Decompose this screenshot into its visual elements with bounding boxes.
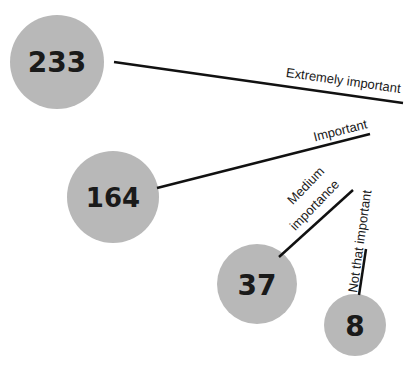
bubble-not-that-important: 8 Not that important	[324, 189, 386, 356]
connector-line	[157, 134, 370, 188]
bubble-medium-importance: 37 importance Medium	[217, 164, 353, 324]
bubble-value: 164	[86, 183, 140, 213]
bubble-label: Extremely important	[285, 65, 402, 96]
bubble-important: 164 Important	[67, 116, 370, 243]
bubble-label: Important	[312, 116, 369, 144]
bubble-value: 233	[28, 46, 86, 79]
bubble-value: 37	[238, 269, 277, 302]
importance-bubble-diagram: 233 Extremely important 164 Important 37…	[0, 0, 409, 366]
bubble-label: Not that important	[345, 189, 374, 294]
bubble-value: 8	[345, 310, 364, 343]
bubble-extremely-important: 233 Extremely important	[10, 15, 403, 109]
